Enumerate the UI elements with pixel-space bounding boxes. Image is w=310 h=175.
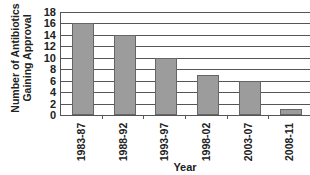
gridline — [61, 35, 310, 36]
y-tick-label: 12 — [44, 40, 56, 52]
y-tick-label: 8 — [50, 63, 56, 75]
x-tick-label-text: 1988-92 — [117, 123, 129, 162]
gridline — [61, 58, 310, 59]
bar-2003-07 — [239, 81, 261, 115]
bar-1993-97 — [155, 58, 177, 115]
gridline — [61, 69, 310, 70]
x-tick-label-text: 1993-97 — [158, 123, 170, 162]
y-tick-label: 0 — [50, 109, 56, 121]
x-tick-label: 1993-97 — [157, 122, 171, 162]
gridline — [61, 81, 310, 82]
y-axis-title-line-2: Gaining Approval — [21, 3, 33, 112]
x-axis-title: Year — [60, 161, 310, 173]
x-tick-label-text: 1983-87 — [75, 123, 87, 162]
gridline — [61, 46, 310, 47]
bar-1998-02 — [197, 75, 219, 115]
x-tick-label: 2003-07 — [241, 122, 255, 162]
x-tick-label: 2008-11 — [282, 122, 296, 162]
gridline — [61, 23, 310, 24]
gridline — [61, 12, 310, 13]
x-tick-label: 1988-92 — [116, 122, 130, 162]
gridline — [61, 104, 310, 105]
x-tick-label-text: 1998-02 — [200, 123, 212, 162]
x-tick — [102, 115, 103, 119]
y-tick-label: 10 — [44, 52, 56, 64]
y-tick-label: 2 — [50, 98, 56, 110]
y-tick-label: 4 — [50, 86, 56, 98]
bar-1988-92 — [114, 35, 136, 115]
x-tick-label-text: 2003-07 — [242, 123, 254, 162]
x-tick-label: 1983-87 — [74, 122, 88, 162]
y-axis-title: Number of Antibiotics Gaining Approval — [2, 2, 40, 114]
y-tick-label: 6 — [50, 75, 56, 87]
x-tick — [268, 115, 269, 119]
gridline — [61, 92, 310, 93]
x-tick — [185, 115, 186, 119]
plot-area — [60, 12, 310, 115]
bar-1983-87 — [72, 23, 94, 115]
x-tick — [143, 115, 144, 119]
x-tick — [227, 115, 228, 119]
x-tick-label: 1998-02 — [199, 122, 213, 162]
y-tick-label: 18 — [44, 6, 56, 18]
y-tick-label: 16 — [44, 17, 56, 29]
y-axis-title-line-1: Number of Antibiotics — [9, 3, 21, 112]
x-tick-label-text: 2008-11 — [283, 123, 295, 161]
y-tick-label: 14 — [44, 29, 56, 41]
